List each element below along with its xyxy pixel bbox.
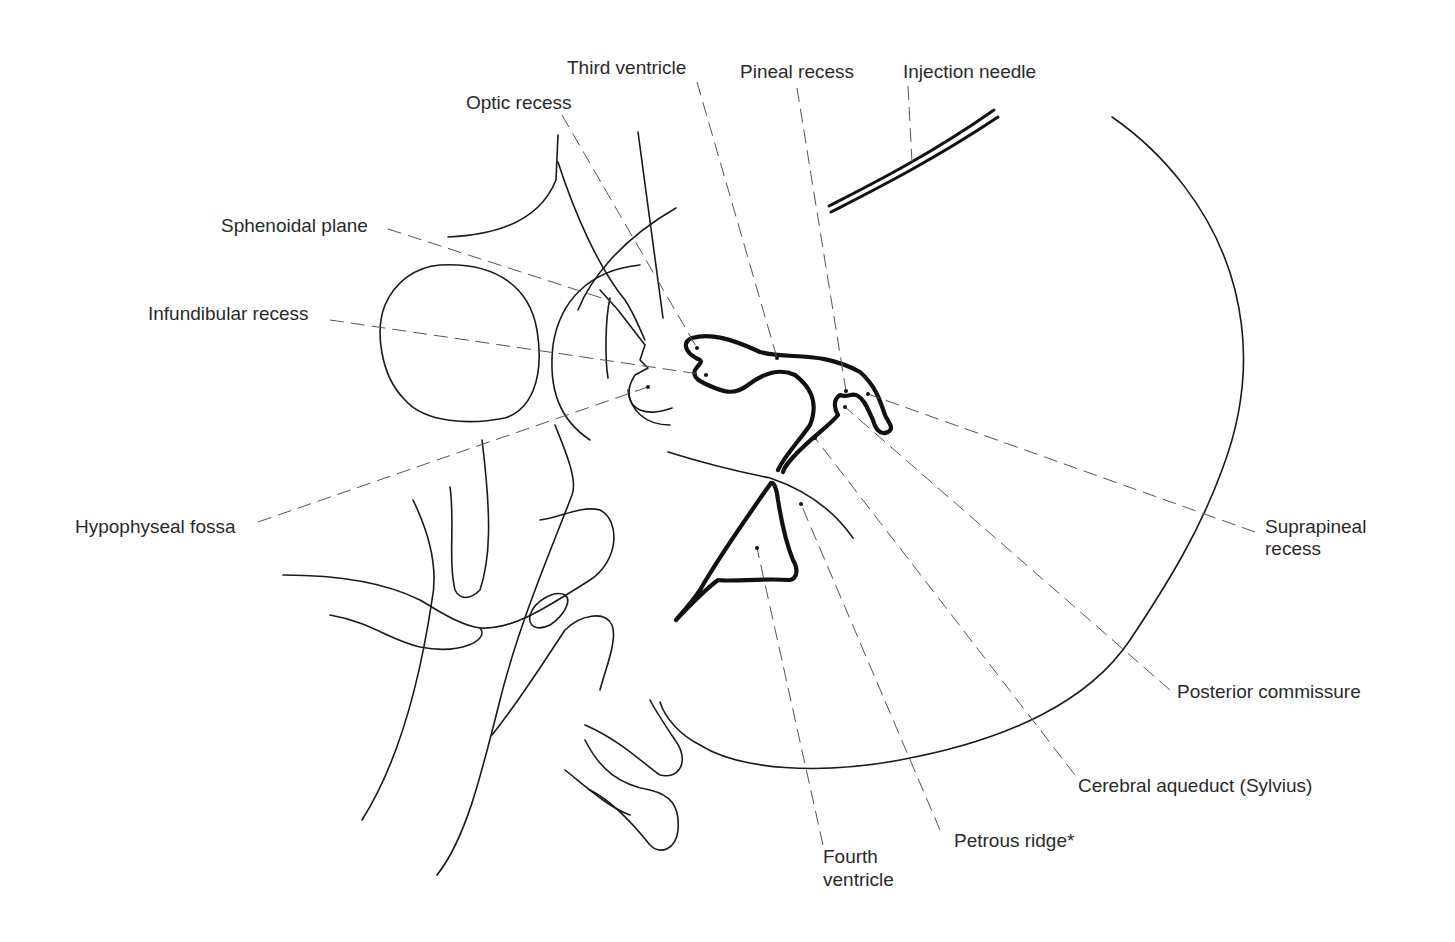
label-suprapineal-recess-line2: recess xyxy=(1265,538,1321,559)
dot-infundibular-recess xyxy=(704,373,708,377)
leader-hypophyseal-fossa xyxy=(258,387,648,522)
leader-petrous-ridge xyxy=(801,504,940,830)
label-pineal-recess: Pineal recess xyxy=(740,61,854,82)
orbit-outline xyxy=(380,265,539,422)
small-oval xyxy=(530,594,568,628)
label-fourth-ventricle-line1: Fourth xyxy=(823,846,878,867)
dot-pineal-recess xyxy=(844,389,848,393)
label-suprapineal-recess-line1: Suprapineal xyxy=(1265,516,1366,537)
leader-fourth-ventricle xyxy=(757,548,823,845)
label-injection-needle: Injection needle xyxy=(903,61,1036,82)
clivus-upper xyxy=(606,298,610,378)
label-optic-recess: Optic recess xyxy=(466,92,572,113)
hypophyseal-fossa-floor xyxy=(628,390,670,425)
label-third-ventricle: Third ventricle xyxy=(567,57,686,78)
dot-petrous-ridge xyxy=(799,502,803,506)
lower-wavy-4 xyxy=(565,770,630,815)
injection-needle xyxy=(829,110,998,212)
leader-sphenoidal-plane xyxy=(388,229,611,301)
label-infundibular-recess: Infundibular recess xyxy=(148,303,309,324)
leader-optic-recess xyxy=(562,115,697,348)
label-fourth-ventricle-line2: ventricle xyxy=(823,869,894,890)
sphenoid-line xyxy=(558,162,645,340)
labels: Third ventricle Pineal recess Injection … xyxy=(75,57,1366,890)
dot-optic-recess xyxy=(695,346,699,350)
dot-suprapineal-recess xyxy=(866,392,870,396)
leader-cerebral-aqueduct xyxy=(815,438,1075,775)
label-posterior-commissure: Posterior commissure xyxy=(1177,681,1361,702)
clivus-line-2 xyxy=(450,440,489,598)
leader-third-ventricle xyxy=(697,82,777,358)
sella-anterior-wall xyxy=(552,265,640,440)
label-sphenoidal-plane: Sphenoidal plane xyxy=(221,215,368,236)
leader-posterior-commissure xyxy=(845,407,1170,690)
lower-wavy-3 xyxy=(585,740,678,850)
third-ventricle-outline xyxy=(686,336,891,472)
label-petrous-ridge: Petrous ridge* xyxy=(954,830,1075,851)
label-hypophyseal-fossa: Hypophyseal fossa xyxy=(75,516,236,537)
dot-cerebral-aqueduct xyxy=(813,436,817,440)
brain-outline xyxy=(660,117,1244,768)
fourth-ventricle-outline xyxy=(676,483,796,620)
leader-injection-needle xyxy=(908,86,912,162)
leader-pineal-recess xyxy=(797,88,846,391)
clivus-line-3 xyxy=(437,425,574,875)
dot-third-ventricle xyxy=(775,356,779,360)
petrous-line-lower xyxy=(330,615,482,649)
dot-fourth-ventricle xyxy=(755,546,759,550)
dot-hypophyseal-fossa xyxy=(646,385,650,389)
needle-line-lower xyxy=(831,117,998,212)
dot-posterior-commissure xyxy=(843,405,847,409)
clivus-line-1 xyxy=(362,500,434,820)
leader-suprapineal-recess xyxy=(868,394,1255,532)
lower-wavy-1 xyxy=(492,616,614,735)
lower-wavy-2 xyxy=(585,700,682,776)
leader-infundibular-recess xyxy=(330,320,706,375)
label-cerebral-aqueduct: Cerebral aqueduct (Sylvius) xyxy=(1078,775,1312,796)
anterior-cranial-curve xyxy=(448,135,558,237)
ventricular-system xyxy=(676,336,891,620)
leader-lines xyxy=(258,82,1255,845)
ventricular-system-diagram: Third ventricle Pineal recess Injection … xyxy=(0,0,1455,942)
